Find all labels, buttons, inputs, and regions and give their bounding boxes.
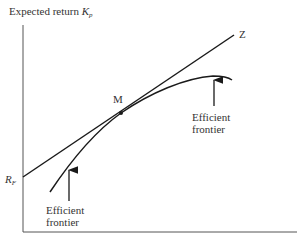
risk-free-label: RF: [5, 173, 16, 189]
axes: [23, 25, 297, 232]
tangency-point-label: M: [113, 93, 123, 105]
annotation-upper-line1: Efficient: [192, 111, 230, 123]
capital-market-line: [23, 35, 234, 177]
y-axis-label: Expected return Kp: [9, 5, 93, 21]
y-axis-symbol-sub: p: [89, 11, 93, 19]
risk-free-sub: F: [12, 179, 16, 187]
tangency-point: [119, 111, 123, 115]
annotation-lower-line2: frontier: [46, 216, 84, 228]
annotation-lower-line1: Efficient: [46, 204, 84, 216]
risk-free-symbol: R: [5, 173, 12, 185]
diagram-canvas: [0, 0, 299, 240]
annotation-upper-frontier: Efficient frontier: [192, 111, 230, 135]
y-axis-symbol: K: [82, 5, 89, 17]
annotation-lower-frontier: Efficient frontier: [46, 204, 84, 228]
line-end-label: Z: [239, 28, 246, 40]
y-axis-label-text: Expected return: [9, 5, 79, 17]
annotation-upper-line2: frontier: [192, 123, 230, 135]
